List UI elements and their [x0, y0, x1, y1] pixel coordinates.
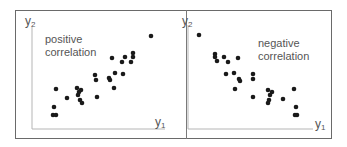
data-point — [266, 88, 271, 93]
data-point — [294, 105, 299, 110]
negative-x-axis-label: y1 — [315, 118, 325, 132]
data-point — [268, 93, 273, 98]
data-point — [120, 60, 125, 65]
data-point — [292, 87, 297, 92]
data-point — [224, 72, 229, 77]
data-point — [93, 73, 98, 78]
positive-y-axis-label: y2 — [25, 15, 35, 29]
data-point — [233, 87, 238, 92]
data-point — [129, 60, 134, 65]
scatter-plots — [0, 0, 347, 147]
data-point — [293, 113, 298, 118]
data-point — [79, 88, 84, 93]
data-point — [108, 78, 113, 83]
data-point — [94, 78, 99, 83]
data-point — [149, 34, 154, 39]
data-point — [226, 60, 231, 65]
data-point — [251, 77, 256, 82]
data-point — [54, 87, 59, 92]
data-point — [197, 33, 202, 38]
negative-y-axis-label: y2 — [182, 15, 192, 29]
data-point — [112, 86, 117, 91]
data-point — [113, 71, 118, 76]
data-point — [52, 105, 57, 110]
data-point — [222, 55, 227, 60]
data-point — [236, 56, 241, 61]
positive-label: positivecorrelation — [45, 34, 96, 58]
data-point — [95, 95, 100, 100]
data-point — [266, 101, 271, 106]
data-point — [281, 97, 286, 102]
data-point — [251, 72, 256, 77]
data-point — [54, 113, 59, 118]
data-point — [131, 51, 136, 56]
data-point — [213, 55, 218, 60]
data-point — [76, 93, 81, 98]
data-point — [65, 96, 70, 101]
data-point — [123, 55, 128, 60]
negative-label: negativecorrelation — [258, 38, 309, 62]
data-point — [131, 55, 136, 60]
data-point — [121, 72, 126, 77]
data-point — [215, 59, 220, 64]
data-point — [75, 86, 80, 91]
positive-x-axis-label: y1 — [155, 116, 165, 130]
data-point — [80, 101, 85, 106]
data-point — [251, 95, 256, 100]
data-point — [110, 56, 115, 61]
data-point — [232, 71, 237, 76]
data-point — [238, 79, 243, 84]
